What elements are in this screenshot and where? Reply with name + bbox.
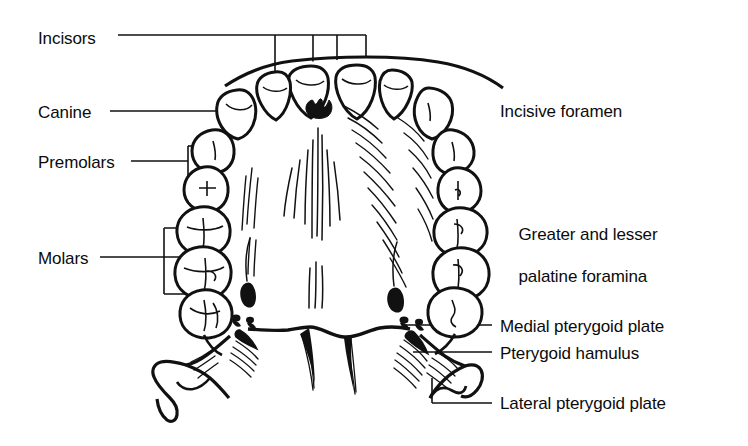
- label-incisive-foramen: Incisive foramen: [500, 101, 622, 122]
- label-palatine-foramina: Greater and lesser palatine foramina: [500, 203, 658, 308]
- anatomy-figure: Incisors Canine Premolars Molars Incisiv…: [0, 0, 748, 446]
- incisive-foramen-mark: [306, 99, 332, 119]
- label-incisors: Incisors: [38, 28, 96, 49]
- label-pterygoid-hamulus: Pterygoid hamulus: [500, 343, 639, 364]
- label-palatine-foramina-line1: Greater and lesser: [519, 225, 658, 244]
- label-premolars: Premolars: [38, 152, 115, 173]
- label-molars: Molars: [38, 248, 88, 269]
- label-palatine-foramina-line2: palatine foramina: [519, 267, 648, 286]
- label-canine: Canine: [38, 102, 91, 123]
- label-medial-pterygoid-plate: Medial pterygoid plate: [500, 316, 664, 337]
- label-lateral-pterygoid-plate: Lateral pterygoid plate: [500, 393, 666, 414]
- tooth-premolar: [184, 167, 228, 212]
